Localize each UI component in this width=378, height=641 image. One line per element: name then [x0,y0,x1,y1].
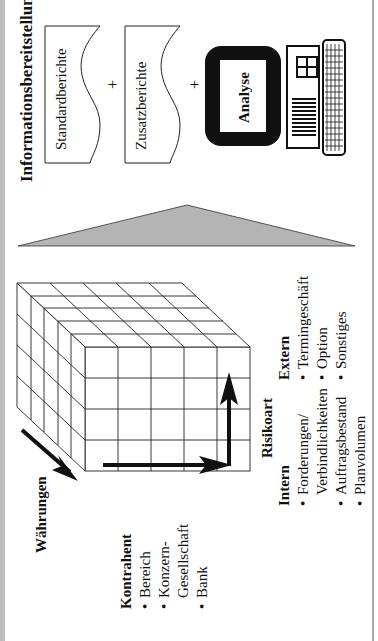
plus-sign-2: + [186,80,203,89]
computer-icon [205,40,345,155]
counterparty-item-1: Bereich [137,551,153,598]
risk-intern-label: Intern [276,465,292,506]
intern-item-1: Forderungen/ [295,413,311,495]
intern-item-2: Auftragsbestand [333,396,349,495]
standard-reports-label: Standardberichte [53,48,69,150]
counterparty-label: Kontrahent [118,534,134,609]
additional-reports-label: Zusatzberichte [133,61,149,150]
diagram-canvas: Informationsbereitstellung Standardberic… [0,0,378,641]
intern-item-3: Planvolumen [352,415,368,495]
risk-type-label: Risikoart [259,398,275,458]
triangle-arrow-icon [18,205,355,246]
diagram-page: Informationsbereitstellung Standardberic… [0,0,378,641]
counterparty-item-3: Bank [194,566,210,598]
plus-sign-1: + [104,80,121,89]
extern-item-2: Option [314,327,330,369]
counterparty-bullet-2: • [156,604,172,609]
extern-item-1: Termingeschäft [295,275,311,369]
extern-bullet-3: • [333,375,349,380]
extern-bullet-1: • [295,375,311,380]
counterparty-bullet-3: • [194,604,210,609]
title: Informationsbereitstellung [17,0,36,182]
intern-bullet-3: • [352,501,368,506]
counterparty-item-2: Konzern- [156,541,172,598]
counterparty-item-2b: Gesellschaft [175,523,191,598]
data-cube-icon [17,283,250,471]
intern-bullet-2: • [333,501,349,506]
counterparty-bullet-1: • [137,604,153,609]
risk-extern-label: Extern [276,335,292,380]
extern-bullet-2: • [314,375,330,380]
intern-bullet-1: • [295,501,311,506]
intern-item-1b: Verbindlichkeiten [314,388,330,495]
analysis-label: Analyse [236,72,252,123]
extern-item-3: Sonstiges [333,311,349,369]
currencies-label: Währungen [33,476,49,553]
